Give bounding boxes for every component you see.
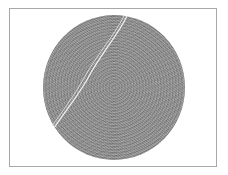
crack-line	[0, 0, 228, 175]
